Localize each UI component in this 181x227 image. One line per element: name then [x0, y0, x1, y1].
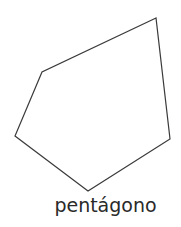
pentagon-polygon [15, 18, 170, 191]
pentagon-shape [0, 0, 181, 227]
shape-label: pentágono [0, 194, 181, 216]
